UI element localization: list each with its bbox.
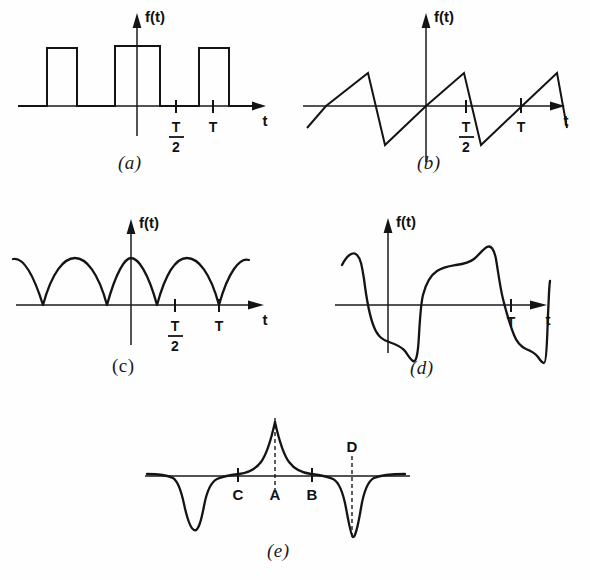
y-axis-label: f(t) (139, 214, 159, 231)
panel-d: T f(t) t (d) (295, 195, 590, 395)
panel-c: T 2 T f(t) t (c) (0, 195, 295, 395)
tick-label-half-period-numerator: T (171, 318, 180, 334)
waveform-rectangular-pulse-train (18, 46, 252, 106)
x-axis-label: t (564, 112, 569, 129)
y-axis-label: f(t) (145, 8, 165, 25)
panel-caption-c: (c) (112, 355, 135, 377)
panel-b-plot: T 2 T f(t) t (295, 0, 590, 195)
tick-label-half-period-denominator: 2 (462, 139, 470, 155)
y-axis-label: f(t) (396, 213, 416, 230)
point-label-c: C (233, 486, 244, 503)
point-label-a: A (270, 486, 281, 503)
y-axis-arrowhead (127, 219, 136, 234)
tick-label-half-period-denominator: 2 (171, 338, 179, 354)
panel-a: T 2 T f(t) t (a) (0, 0, 295, 195)
tick-label-period: T (209, 119, 218, 135)
point-label-d: D (347, 438, 358, 455)
waveform-sawtooth (307, 73, 567, 145)
tick-label-half-period-denominator: 2 (172, 139, 180, 155)
x-axis-arrowhead (530, 301, 547, 310)
panel-caption-a: (a) (118, 152, 142, 174)
point-label-b: B (307, 486, 318, 503)
y-axis-label: f(t) (434, 8, 454, 25)
x-axis-label: t (263, 112, 268, 129)
waveform-resonance-curve (147, 422, 405, 537)
x-axis-arrowhead (248, 301, 264, 310)
panel-e: C A B D (e) (115, 400, 485, 580)
panel-d-plot: T f(t) t (295, 195, 590, 395)
panel-caption-e: (e) (267, 540, 290, 562)
panel-a-plot: T 2 T f(t) t (0, 0, 295, 195)
y-axis-arrowhead (384, 218, 393, 233)
y-axis-arrowhead (422, 13, 431, 28)
panel-b: T 2 T f(t) t (b) (295, 0, 590, 195)
panel-e-plot: C A B D (115, 400, 485, 580)
tick-label-period: T (507, 314, 516, 330)
tick-label-half-period-numerator: T (172, 119, 181, 135)
panel-c-plot: T 2 T f(t) t (0, 195, 295, 395)
tick-label-period: T (215, 318, 224, 334)
panel-caption-d: (d) (410, 357, 434, 379)
x-axis-label: t (263, 311, 268, 328)
figure-sheet: T 2 T f(t) t (a) T 2 T f(t) t (0, 0, 590, 580)
tick-label-period: T (517, 119, 526, 135)
tick-label-half-period-numerator: T (462, 119, 471, 135)
x-axis-arrowhead (252, 102, 266, 111)
x-axis-label: t (546, 311, 551, 328)
panel-caption-b: (b) (417, 152, 441, 174)
y-axis-arrowhead (133, 13, 142, 28)
